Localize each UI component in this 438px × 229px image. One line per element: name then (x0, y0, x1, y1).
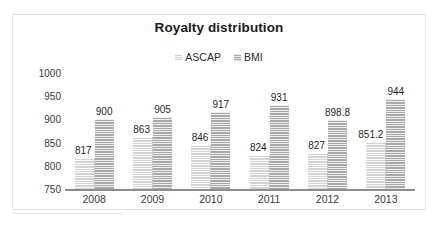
x-tick-label-2009: 2009 (141, 193, 164, 205)
bar-bmi-2011[interactable]: 931 (270, 105, 289, 189)
bar-group-2008: 817 900 (65, 73, 123, 189)
y-tick-label: 950 (21, 91, 61, 102)
bar-ascap-2012[interactable]: 827 (308, 153, 328, 189)
bar-ascap-2011[interactable]: 824 (250, 155, 270, 189)
bar-bmi-2013[interactable]: 944 (386, 99, 405, 189)
bar-ascap-2009[interactable]: 863 (133, 137, 153, 189)
y-tick-label: 900 (21, 114, 61, 125)
bar-label-bmi-2010: 917 (212, 99, 229, 111)
bar-group-2009: 863 905 (123, 73, 181, 189)
x-tick-label-2013: 2013 (374, 193, 397, 205)
bar-label-bmi-2012: 898.8 (325, 107, 350, 119)
plot-area: 1000 950 900 850 800 750 817 900 863 (13, 15, 427, 209)
bar-bmi-2012[interactable]: 898.8 (328, 120, 347, 189)
bar-bmi-2008[interactable]: 900 (95, 119, 114, 189)
bar-bmi-2009[interactable]: 905 (153, 117, 172, 189)
bar-ascap-2008[interactable]: 817 (75, 158, 95, 189)
x-axis-line (65, 189, 415, 191)
bar-label-ascap-2008: 817 (75, 145, 92, 157)
bar-label-ascap-2010: 846 (192, 132, 209, 144)
bars-area: 817 900 863 905 846 917 (65, 73, 415, 189)
bar-group-2010: 846 917 (182, 73, 240, 189)
bar-bmi-2010[interactable]: 917 (211, 112, 230, 190)
bar-group-2013: 851.2 944 (357, 73, 415, 189)
chart-frame: Royalty distribution ASCAP BMI 1000 950 … (12, 14, 426, 210)
y-tick-label: 750 (21, 184, 61, 195)
bar-label-ascap-2013: 851.2 (358, 129, 383, 141)
y-tick-label: 800 (21, 160, 61, 171)
y-axis: 1000 950 900 850 800 750 (17, 15, 61, 209)
bar-label-ascap-2009: 863 (133, 124, 150, 136)
bar-label-bmi-2008: 900 (96, 106, 113, 118)
bar-group-2011: 824 931 (240, 73, 298, 189)
y-tick-label: 1000 (21, 68, 61, 79)
bar-label-bmi-2009: 905 (154, 104, 171, 116)
x-tick-label-2012: 2012 (316, 193, 339, 205)
scan-artifact-line (12, 213, 122, 214)
x-tick-label-2011: 2011 (258, 193, 281, 205)
bar-ascap-2013[interactable]: 851.2 (366, 142, 386, 189)
bar-group-2012: 827 898.8 (298, 73, 356, 189)
x-axis: 2008 2009 2010 2011 2012 2013 (65, 193, 415, 209)
bar-label-ascap-2012: 827 (308, 140, 325, 152)
bar-label-ascap-2011: 824 (250, 142, 267, 154)
x-tick-label-2008: 2008 (82, 193, 105, 205)
bar-label-bmi-2013: 944 (387, 86, 404, 98)
bar-ascap-2010[interactable]: 846 (191, 145, 211, 190)
bar-label-bmi-2011: 931 (271, 92, 288, 104)
x-tick-label-2010: 2010 (199, 193, 222, 205)
y-tick-label: 850 (21, 137, 61, 148)
